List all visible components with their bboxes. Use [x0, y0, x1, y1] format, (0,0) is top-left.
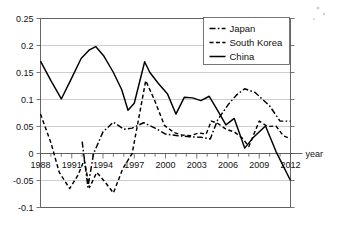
y-tick-label: 0.25 — [16, 14, 34, 24]
y-tick-label: 0.05 — [16, 122, 34, 132]
x-tick-label: 1994 — [93, 160, 113, 170]
x-axis-title-label: year — [306, 149, 324, 159]
y-tick-label: 0.1 — [21, 95, 34, 105]
y-tick-label: 0 — [28, 149, 33, 159]
legend-label-south-korea: South Korea — [230, 37, 284, 48]
y-tick-label: 0.2 — [21, 41, 34, 51]
x-tick-label: 2003 — [187, 160, 207, 170]
y-tick-label: -0.1 — [18, 203, 34, 213]
legend-label-china: China — [230, 51, 256, 62]
x-tick-label: 2009 — [249, 160, 269, 170]
y-tick-label: -0.05 — [13, 176, 34, 186]
chart-canvas: 0.250.20.150.10.050-0.05-0.1 19881991199… — [0, 0, 337, 226]
x-tick-label: 2006 — [218, 160, 238, 170]
line-chart: 0.250.20.150.10.050-0.05-0.1 19881991199… — [0, 0, 337, 226]
x-tick-label: 1988 — [30, 160, 50, 170]
x-tick-label: 2000 — [155, 160, 175, 170]
y-tick-label: 0.15 — [16, 68, 34, 78]
x-tick-label: 1991 — [62, 160, 82, 170]
legend-label-japan: Japan — [230, 23, 256, 34]
x-axis-title: year — [306, 149, 324, 159]
chart-legend: JapanSouth KoreaChina — [204, 18, 290, 65]
x-axis-tick-labels: 198819911994199720002003200620092012 — [30, 160, 300, 170]
